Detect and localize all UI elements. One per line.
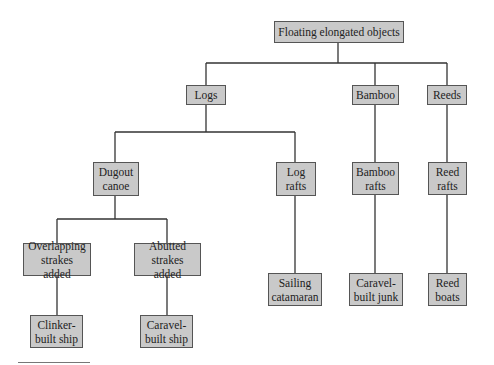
node-overlapping-strakes: Overlapping strakes added — [23, 243, 91, 276]
connector-lines — [0, 0, 494, 365]
node-label: Log rafts — [286, 165, 306, 193]
footnote-divider — [18, 362, 90, 363]
node-label: Bamboo — [356, 88, 395, 102]
node-bamboo: Bamboo — [352, 85, 399, 105]
node-label: Caravel- built ship — [145, 318, 188, 346]
node-label: Overlapping strakes added — [27, 239, 87, 281]
node-label: Caravel- built junk — [354, 276, 398, 304]
node-label: Abutted strakes added — [138, 239, 197, 281]
node-label: Reed rafts — [436, 165, 460, 193]
node-caravel-built-ship: Caravel- built ship — [140, 315, 193, 348]
node-logs: Logs — [186, 85, 226, 105]
node-label: Reed boats — [435, 276, 459, 304]
node-caravel-built-junk: Caravel- built junk — [349, 273, 403, 306]
node-sailing-catamaran: Sailing catamaran — [268, 273, 322, 306]
node-label: Sailing catamaran — [271, 276, 318, 304]
node-label: Clinker- built ship — [35, 318, 78, 346]
node-clinker-built-ship: Clinker- built ship — [30, 315, 83, 348]
node-reed-boats: Reed boats — [428, 273, 467, 306]
tree-diagram: Floating elongated objects Logs Bamboo R… — [0, 0, 494, 365]
node-root: Floating elongated objects — [274, 21, 404, 43]
node-bamboo-rafts: Bamboo rafts — [352, 162, 399, 195]
node-dugout-canoe: Dugout canoe — [93, 162, 139, 196]
node-abutted-strakes: Abutted strakes added — [134, 243, 201, 276]
node-label: Dugout canoe — [99, 165, 134, 193]
node-reeds: Reeds — [427, 85, 467, 105]
node-label: Reeds — [433, 88, 461, 102]
node-label: Floating elongated objects — [278, 25, 399, 39]
node-label: Bamboo rafts — [356, 165, 395, 193]
node-reed-rafts: Reed rafts — [428, 162, 467, 195]
node-label: Logs — [195, 88, 218, 102]
node-log-rafts: Log rafts — [276, 162, 316, 196]
